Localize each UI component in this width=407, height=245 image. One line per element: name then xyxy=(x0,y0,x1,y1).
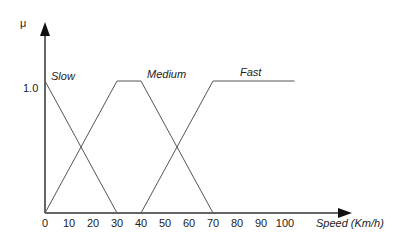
x-tick-label: 80 xyxy=(231,217,243,229)
y-tick-1: 1.0 xyxy=(23,82,38,94)
x-tick-label: 90 xyxy=(255,217,267,229)
x-tick-label: 20 xyxy=(87,217,99,229)
series-line-medium xyxy=(45,81,213,213)
series-label-medium: Medium xyxy=(147,68,186,80)
series-label-fast: Fast xyxy=(240,66,262,78)
x-tick-labels: 0102030405060708090100 xyxy=(42,217,294,229)
x-axis-label: Speed (Km/h) xyxy=(316,217,384,229)
y-axis-arrow-icon xyxy=(40,22,50,36)
series-line-fast xyxy=(141,81,295,213)
y-axis-label: μ xyxy=(20,17,26,29)
axes xyxy=(40,22,352,218)
x-tick-label: 30 xyxy=(111,217,123,229)
x-tick-label: 100 xyxy=(276,217,294,229)
x-tick-label: 0 xyxy=(42,217,48,229)
x-tick-label: 50 xyxy=(159,217,171,229)
series-label-slow: Slow xyxy=(51,70,76,82)
series xyxy=(45,81,295,213)
x-tick-label: 10 xyxy=(63,217,75,229)
x-tick-label: 40 xyxy=(135,217,147,229)
fuzzy-membership-chart: 0102030405060708090100 μ 1.0 Slow Medium… xyxy=(0,0,407,245)
x-tick-label: 60 xyxy=(183,217,195,229)
x-tick-label: 70 xyxy=(207,217,219,229)
